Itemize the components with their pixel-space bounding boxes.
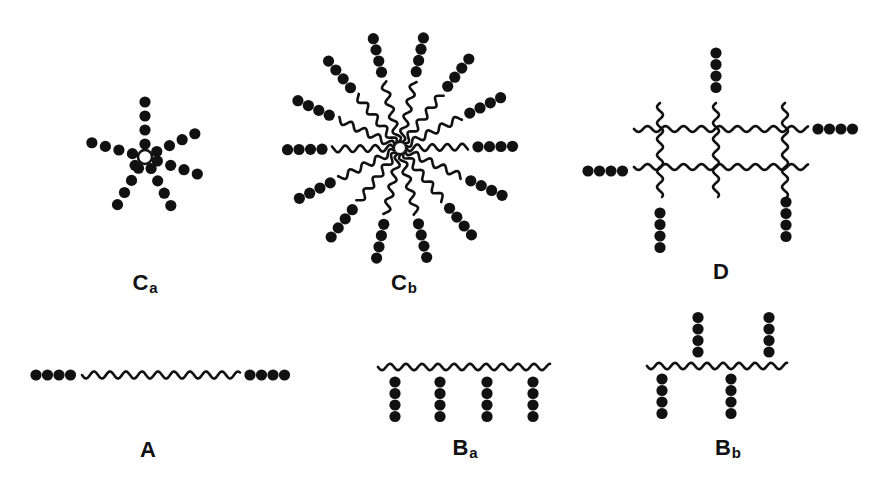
bead (294, 193, 305, 204)
bead (370, 44, 381, 55)
bead (495, 141, 506, 152)
bead (725, 396, 736, 407)
bead (654, 207, 665, 218)
bead (313, 105, 324, 116)
bead (692, 323, 703, 334)
bead (139, 96, 150, 107)
bead (449, 72, 460, 83)
bead (463, 53, 474, 64)
bead (113, 144, 124, 155)
bead (434, 376, 445, 387)
bead (100, 141, 111, 152)
bead (42, 369, 53, 380)
structure-ca-star (86, 96, 203, 211)
bead (244, 369, 255, 380)
bead (434, 388, 445, 399)
bead (164, 140, 175, 151)
bead (472, 141, 483, 152)
bead (481, 411, 492, 422)
bead (178, 164, 189, 175)
bead (710, 70, 721, 81)
bead (507, 141, 518, 152)
bead (376, 230, 387, 241)
wavy-chain (713, 103, 719, 197)
bead (459, 220, 470, 231)
bead (139, 138, 150, 149)
structure-d-network (582, 47, 858, 253)
bead (656, 408, 667, 419)
bead (656, 396, 667, 407)
label-ba: Ba (452, 437, 477, 460)
bead (279, 369, 290, 380)
bead (527, 376, 538, 387)
bead (725, 373, 736, 384)
bead (605, 165, 616, 176)
bead (486, 185, 497, 196)
bead (413, 218, 424, 229)
bead (347, 204, 358, 215)
bead (617, 165, 628, 176)
bead (582, 165, 593, 176)
bead (389, 376, 400, 387)
wavy-chain (382, 81, 401, 142)
label-ca: Ca (132, 272, 157, 295)
bead (411, 66, 422, 77)
bead (127, 148, 138, 159)
bead (527, 411, 538, 422)
structure-cb-star (282, 32, 518, 263)
label-bb: Bb (715, 437, 741, 460)
bead (812, 123, 823, 134)
bead (165, 160, 176, 171)
bead (325, 177, 336, 188)
bead (292, 95, 303, 106)
bead (656, 373, 667, 384)
bead (345, 82, 356, 93)
bead (442, 81, 453, 92)
bead (725, 385, 736, 396)
label-a: A (140, 439, 156, 461)
bead (418, 241, 429, 252)
bead (418, 32, 429, 43)
bead (324, 110, 335, 121)
bead (654, 242, 665, 253)
bead (465, 175, 476, 186)
bead (594, 165, 605, 176)
bead (692, 335, 703, 346)
bead (481, 376, 492, 387)
bead (710, 59, 721, 70)
bead (780, 208, 791, 219)
bead (725, 408, 736, 419)
bead (824, 123, 835, 134)
bead (763, 335, 774, 346)
bead (413, 55, 424, 66)
bead (323, 56, 334, 67)
bead (305, 144, 316, 155)
label-d: D (713, 261, 729, 283)
bead (780, 219, 791, 230)
bead (763, 346, 774, 357)
bead (340, 213, 351, 224)
wavy-chain (82, 371, 240, 378)
bead (159, 188, 170, 199)
bead (692, 312, 703, 323)
bead (267, 369, 278, 380)
bead (304, 188, 315, 199)
bead (466, 229, 477, 240)
wavy-chain (406, 144, 468, 151)
bead (303, 100, 314, 111)
bead (373, 55, 384, 66)
bead (780, 231, 791, 242)
wavy-chain (356, 153, 396, 201)
bead (373, 241, 384, 252)
bead (293, 144, 304, 155)
bead (656, 385, 667, 396)
bead (333, 222, 344, 233)
bead (256, 369, 267, 380)
wavy-chain (332, 145, 394, 152)
bead (338, 73, 349, 84)
bead (314, 182, 325, 193)
bead (780, 196, 791, 207)
bead (282, 144, 293, 155)
wavy-chain (657, 103, 663, 197)
bead (495, 92, 506, 103)
